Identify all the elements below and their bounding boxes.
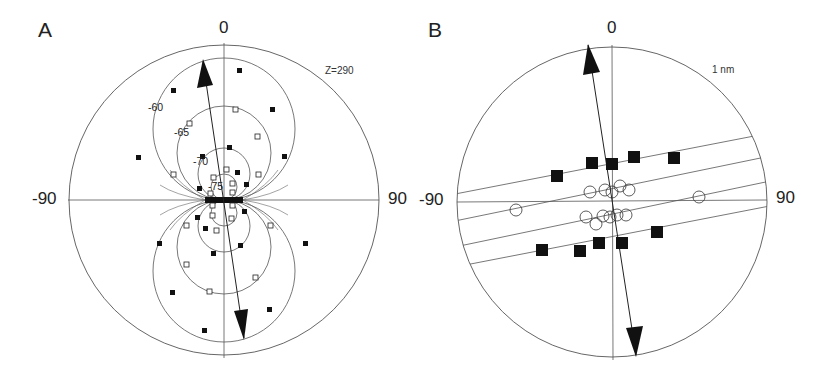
parallel-lines [450, 131, 780, 268]
panel-a-plot [0, 0, 410, 377]
contour-label: -70 [193, 155, 208, 167]
filled-square-markers [536, 151, 680, 257]
contour-label: -75 [208, 180, 223, 192]
axis-label-top: 0 [607, 18, 616, 38]
panel-letter: A [38, 18, 52, 42]
panel-letter: B [428, 18, 442, 42]
open-circle-markers [510, 180, 705, 230]
arrow-head-down-icon [626, 326, 643, 357]
arrow-head-up-icon [197, 59, 213, 88]
panel-b-plot [410, 0, 820, 377]
axis-label-left: -90 [419, 190, 444, 210]
axis-label-left: -90 [32, 189, 57, 209]
panel-b: B 0 -90 90 1 nm [410, 0, 820, 377]
annotation-scale: 1 nm [712, 64, 734, 75]
annotation-z: Z=290 [325, 65, 354, 76]
arrow-head-down-icon [234, 309, 248, 340]
contour-label: -60 [148, 101, 163, 113]
axis-label-top: 0 [219, 18, 228, 38]
contour-label: -65 [174, 126, 189, 138]
axis-label-right: 90 [776, 188, 795, 208]
panel-a: A 0 -90 90 Z=290 -60 -65 -70 -75 [0, 0, 410, 377]
axis-label-right: 90 [388, 189, 407, 209]
